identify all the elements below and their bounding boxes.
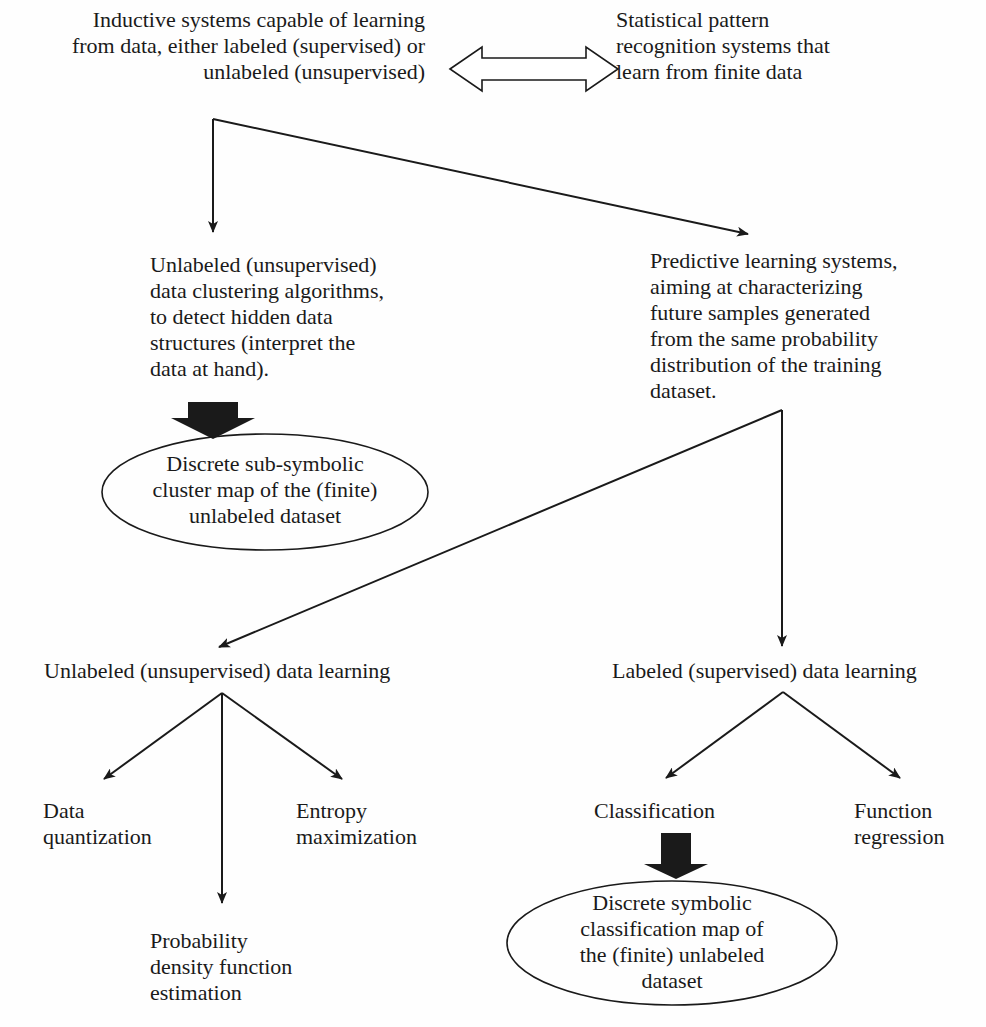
node-statistical-pattern: Statistical pattern recognition systems … (616, 7, 946, 85)
double-arrow-icon (450, 47, 618, 91)
node-inductive-systems: Inductive systems capable of learning fr… (20, 7, 425, 85)
node-clustering-algorithms: Unlabeled (unsupervised) data clustering… (150, 252, 450, 382)
node-symbolic-map: Discrete symbolic classification map of … (522, 890, 822, 994)
node-pdf-estimation: Probability density function estimation (150, 928, 370, 1006)
node-subsymbolic-map: Discrete sub-symbolic cluster map of the… (110, 451, 420, 529)
node-supervised-learning: Labeled (supervised) data learning (612, 658, 982, 684)
edge-unsupervised-to-entropy (222, 693, 342, 779)
node-function-regression: Function regression (854, 798, 984, 850)
node-entropy-maximization: Entropy maximization (296, 798, 496, 850)
edge-supervised-to-classification (666, 692, 783, 778)
edge-inductive-to-predictive (213, 119, 748, 234)
node-unsupervised-learning: Unlabeled (unsupervised) data learning (44, 658, 474, 684)
edge-unsupervised-to-quantization (104, 693, 222, 779)
edge-supervised-to-regression (783, 692, 900, 778)
block-arrow-icon (171, 402, 255, 439)
node-data-quantization: Data quantization (43, 798, 243, 850)
node-classification: Classification (594, 798, 794, 824)
node-predictive-learning: Predictive learning systems, aiming at c… (650, 248, 980, 404)
diagram-canvas: Inductive systems capable of learning fr… (0, 0, 986, 1027)
block-arrow-icon (644, 833, 708, 879)
